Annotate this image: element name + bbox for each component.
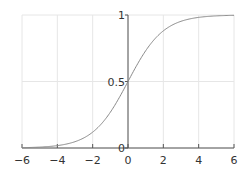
x-tick-label: 6 [231, 154, 238, 167]
x-tick-label: −4 [49, 154, 65, 167]
x-tick-label: −2 [85, 154, 101, 167]
y-tick-labels: 00.51 [108, 9, 126, 155]
y-tick-label: 1 [118, 9, 125, 22]
x-tick-label: −6 [14, 154, 30, 167]
sigmoid-chart: −6−4−20246 00.51 [0, 0, 251, 177]
x-tick-label: 2 [160, 154, 167, 167]
y-tick-label: 0 [118, 142, 125, 155]
x-tick-labels: −6−4−20246 [14, 154, 238, 167]
y-tick-label: 0.5 [108, 76, 126, 89]
x-tick-label: 0 [125, 154, 132, 167]
x-tick-label: 4 [195, 154, 202, 167]
